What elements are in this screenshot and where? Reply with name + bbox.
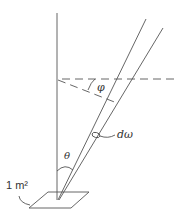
beam-edge-left — [58, 19, 146, 200]
d-omega-label: dω — [117, 129, 133, 140]
azimuth-projection-dashed — [58, 80, 117, 103]
phi-label: φ — [97, 82, 105, 93]
phi-angle-arc — [88, 79, 95, 90]
area-leader — [19, 196, 30, 205]
area-label: 1 m² — [6, 180, 28, 191]
beam-edge-right — [59, 28, 163, 200]
d-omega-leader — [100, 135, 115, 137]
theta-angle-arc — [57, 167, 73, 171]
solid-angle-ellipse — [91, 132, 100, 139]
theta-label: θ — [64, 151, 70, 161]
